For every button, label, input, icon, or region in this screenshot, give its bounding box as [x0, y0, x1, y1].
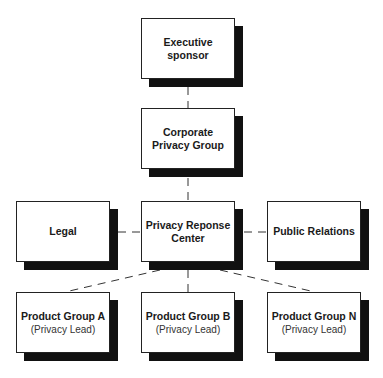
node-title: Executive [163, 36, 212, 49]
node-corporate-privacy-group: Corporate Privacy Group [141, 108, 235, 169]
node-executive-sponsor: Executive sponsor [141, 18, 235, 79]
box: Corporate Privacy Group [141, 108, 235, 169]
box: Legal [16, 201, 110, 262]
node-title: Product Group A [21, 310, 105, 323]
box: Public Relations [267, 201, 361, 262]
box: Product Group A (Privacy Lead) [16, 292, 110, 353]
node-subtitle: (Privacy Lead) [282, 323, 346, 336]
box: Privacy Reponse Center [141, 201, 235, 262]
box: Product Group B (Privacy Lead) [141, 292, 235, 353]
edge-prc-pga [65, 270, 160, 292]
node-subtitle: (Privacy Lead) [31, 323, 95, 336]
node-subtitle: (Privacy Lead) [156, 323, 220, 336]
node-product-group-a: Product Group A (Privacy Lead) [16, 292, 110, 353]
node-title: Center [171, 232, 204, 245]
node-public-relations: Public Relations [267, 201, 361, 262]
node-title: Privacy Reponse [146, 219, 231, 232]
node-product-group-n: Product Group N (Privacy Lead) [267, 292, 361, 353]
node-title: Public Relations [273, 225, 355, 238]
node-privacy-response-center: Privacy Reponse Center [141, 201, 235, 262]
edge-prc-pgn [220, 270, 315, 292]
box: Executive sponsor [141, 18, 235, 79]
node-title: Product Group N [272, 310, 357, 323]
node-title: sponsor [167, 49, 208, 62]
node-product-group-b: Product Group B (Privacy Lead) [141, 292, 235, 353]
node-legal: Legal [16, 201, 110, 262]
node-title: Corporate [163, 126, 213, 139]
node-title: Product Group B [146, 310, 231, 323]
node-title: Legal [49, 225, 76, 238]
node-title: Privacy Group [152, 139, 224, 152]
box: Product Group N (Privacy Lead) [267, 292, 361, 353]
